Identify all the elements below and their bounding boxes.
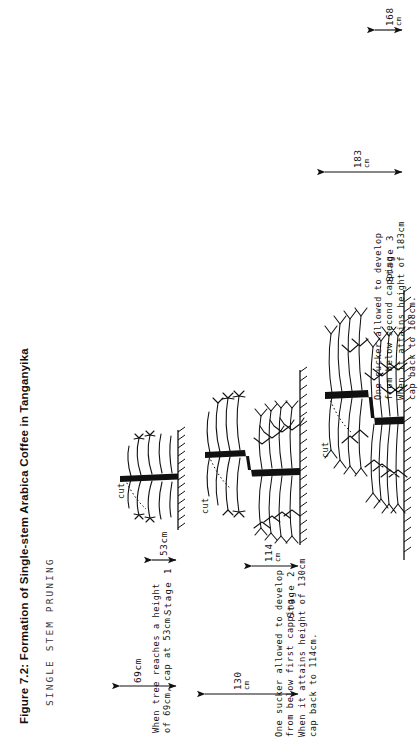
stage-3-caption-line-1: One sucker allowed to develop [373,221,384,400]
figure-title: Figure 7.2: Formation of Single-stem Ara… [18,348,30,724]
stage-3-dim-168-unit: cm [394,16,403,26]
stage-3-dim-183-unit: cm [362,158,371,168]
stage-1-dim-53cm-label: 53cm [158,531,169,556]
pruning-diagram-artwork [0,0,420,741]
stage-1-caption: When tree reaches a height of 69cm, cap … [151,583,174,733]
stage-2-dim-114-unit: cm [273,552,282,562]
stage-2-caption: One sucker allowed to develop from below… [274,558,320,737]
stage-2-caption-line-1: One sucker allowed to develop [274,558,285,737]
stage-3-cut-label: cut [320,441,330,458]
stage-1-plant [120,427,185,530]
stage-3-caption: One sucker allowed to develop from below… [373,221,419,400]
stage-1-caption-line-1: When tree reaches a height [151,583,162,733]
stage-2-plant [205,367,307,545]
stage-2-caption-line-3: When it attains height of 130cm [297,558,308,737]
figure-page: Figure 7.2: Formation of Single-stem Ara… [0,0,420,741]
stage-2-cut-label: cut [200,497,210,514]
stage-1-dim-69cm-label: 69cm [132,658,143,683]
stage-1-cut-label: cut [116,482,126,499]
stage-2-caption-line-4: cap back to 114cm. [308,558,319,737]
stage-3-caption-line-4: cap back to 168cm. [407,221,418,400]
stage-2-caption-line-2: from below first capping. [285,558,296,737]
stage-1-caption-line-2: of 69cm, cap at 53cm. [162,583,173,733]
stage-3-caption-line-2: from below second capping. [384,221,395,400]
stage-3-caption-line-3: When it attains height of 183cm [396,221,407,400]
figure-subtitle: SINGLE STEM PRUNING [44,557,55,706]
stage-2-dim-130-unit: cm [242,680,251,690]
